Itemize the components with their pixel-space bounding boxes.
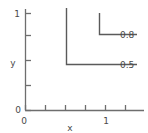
chart-plot-area: 1 0 0 1 y x 0.8 0.5 <box>0 0 148 133</box>
x-axis-title: x <box>67 123 73 133</box>
y-tick-label-max: 1 <box>14 9 20 19</box>
y-axis-ticks <box>26 14 32 111</box>
series-label-0-8: 0.8 <box>120 30 135 40</box>
chart-container: 1 0 0 1 y x 0.8 0.5 <box>0 0 148 133</box>
x-tick-label-max: 1 <box>103 116 109 126</box>
x-axis-ticks <box>26 105 126 111</box>
x-tick-label-origin: 0 <box>21 116 27 126</box>
y-tick-label-origin: 0 <box>15 105 21 115</box>
y-axis-title: y <box>10 58 16 68</box>
series-label-0-5: 0.5 <box>120 60 134 70</box>
